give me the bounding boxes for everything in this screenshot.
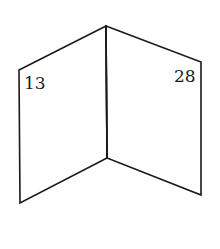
right-face-label: 28 xyxy=(174,66,196,86)
dihedral-diagram: 13 28 xyxy=(0,0,220,249)
left-face xyxy=(19,26,107,203)
spine-edge xyxy=(106,26,107,158)
right-face xyxy=(106,26,201,195)
left-face-label: 13 xyxy=(24,73,46,93)
